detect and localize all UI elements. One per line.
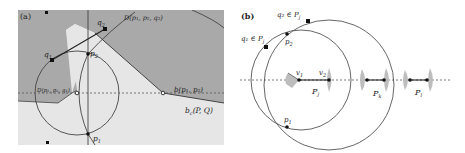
- panel-b-label: (b): [241, 11, 254, 21]
- label-bisector: b(p₁, p₂): [174, 86, 203, 94]
- label-disk-q2: D(p₁, p₂, q₂): [123, 14, 163, 22]
- label-v1: v1: [296, 69, 303, 78]
- center-q1-disk: [75, 91, 79, 95]
- label-q2-in-pj: q₂ ∈ Pj: [277, 11, 301, 21]
- panel-a-label: (a): [20, 12, 31, 21]
- label-pl: Pl: [414, 88, 422, 98]
- point-q2-b: [306, 19, 310, 23]
- label-v2: v2: [319, 69, 326, 78]
- wedge-pl-left: [403, 70, 408, 90]
- corner-point-bottom: [46, 141, 49, 144]
- point-p1-b: [285, 125, 289, 129]
- vertex-pl-1: [408, 78, 412, 82]
- panel-a: (a) q1 q2 p2 p1 D(p₁, p₂, q₂) D(p₁, p₂, …: [18, 10, 224, 145]
- label-p2-b: p2: [285, 38, 293, 47]
- label-pj: Pj: [311, 87, 319, 98]
- vertex-pl-2: [425, 78, 429, 82]
- vertex-pk-2: [382, 78, 386, 82]
- point-p2-b: [285, 32, 289, 36]
- point-p1: [86, 132, 90, 136]
- label-bc: bc(P, Q): [185, 106, 213, 116]
- corner-point-top: [45, 11, 48, 14]
- point-q1-b: [264, 45, 268, 49]
- panel-b: (b) q₂ ∈ Pj q₁ ∈ Pj p: [240, 11, 450, 150]
- label-q1-in-pj: q₁ ∈ Pj: [241, 35, 265, 45]
- label-p1-b: p1: [284, 116, 292, 125]
- vertex-v1: [297, 78, 301, 82]
- center-bisector: [161, 91, 165, 95]
- label-disk-q1: D(p₁, p₂, q₁): [36, 87, 70, 94]
- figure-canvas: (a) q1 q2 p2 p1 D(p₁, p₂, q₂) D(p₁, p₂, …: [0, 0, 465, 153]
- label-pk: Pk: [372, 89, 381, 99]
- vertex-pk-1: [365, 78, 369, 82]
- wedge-pk-left: [360, 69, 365, 91]
- vertex-v2: [327, 78, 331, 82]
